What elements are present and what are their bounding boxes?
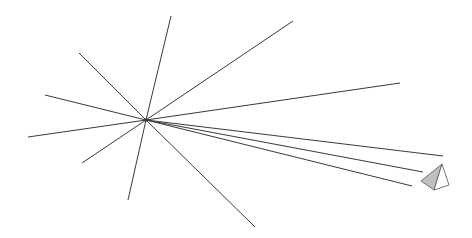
- pyramid-icon: [421, 164, 449, 190]
- diagram-canvas: [0, 0, 472, 238]
- ray-line: [82, 120, 146, 163]
- ray-line: [146, 120, 423, 172]
- ray-line: [45, 95, 146, 120]
- ray-line: [28, 120, 146, 137]
- ray-line: [146, 21, 293, 120]
- ray-line: [146, 16, 171, 120]
- ray-diagram: [0, 0, 472, 238]
- rays-group: [28, 16, 443, 227]
- ray-line: [146, 83, 400, 120]
- ray-line: [128, 120, 146, 200]
- ray-line: [79, 53, 146, 120]
- ray-line: [146, 120, 255, 227]
- ray-line: [146, 120, 443, 156]
- origin-point: [144, 118, 148, 122]
- ray-line: [146, 120, 412, 186]
